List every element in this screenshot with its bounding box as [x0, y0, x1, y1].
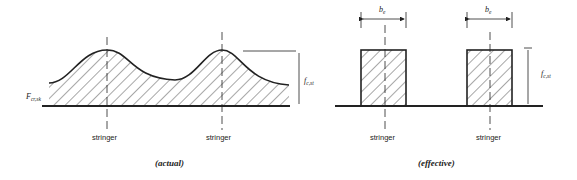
height-label-effective: fc,st	[541, 69, 551, 79]
actual-distribution: Fcr,sk stringer stringer (actual)	[25, 32, 299, 168]
stress-distribution-figure: Fcr,sk stringer stringer (actual) fc,st …	[0, 0, 577, 180]
stringer-label-2: stringer	[206, 133, 232, 142]
stringer-label-4: stringer	[476, 133, 502, 142]
width-label-2: be	[485, 5, 492, 15]
effective-block-1	[361, 50, 406, 106]
actual-caption: (actual)	[155, 158, 184, 168]
skin-stress-label: Fcr,sk	[25, 92, 41, 102]
stringer-label-1: stringer	[92, 133, 118, 142]
height-label-actual: fc,st	[304, 76, 314, 86]
effective-distribution: be be fc,st stringer stringer (effective…	[335, 5, 551, 168]
stringer-label-3: stringer	[370, 133, 396, 142]
width-label-1: be	[379, 5, 386, 15]
effective-block-2	[467, 50, 512, 106]
effective-caption: (effective)	[418, 158, 455, 168]
